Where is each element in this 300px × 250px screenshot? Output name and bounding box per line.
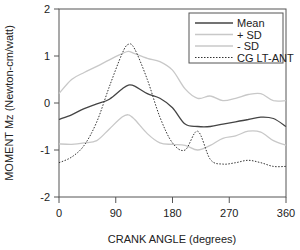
x-axis: 090180270360 <box>56 197 295 219</box>
y-tick-label: -1 <box>40 144 50 156</box>
y-axis-title: MOMENT Mz (Newton-cm/watt) <box>3 25 15 181</box>
x-tick-label: 270 <box>220 207 238 219</box>
y-axis: 210-1-2 <box>40 3 59 203</box>
series-line-sd <box>59 115 286 150</box>
legend-label: Mean <box>237 17 265 29</box>
x-tick-label: 90 <box>110 207 122 219</box>
y-tick-label: 2 <box>44 3 50 15</box>
x-tick-label: 360 <box>277 207 295 219</box>
legend: Mean+ SD- SDCG LT-ANT <box>189 13 294 64</box>
legend-label: + SD <box>237 29 262 41</box>
y-tick-label: 1 <box>44 50 50 62</box>
chart-figure: 210-1-2 090180270360 CRANK ANGLE (degree… <box>0 0 300 250</box>
x-tick-label: 0 <box>56 207 62 219</box>
series-line-mean <box>59 85 286 127</box>
legend-label: - SD <box>237 40 259 52</box>
x-axis-title: CRANK ANGLE (degrees) <box>108 233 236 245</box>
y-tick-label: -2 <box>40 191 50 203</box>
legend-label: CG LT-ANT <box>237 52 294 64</box>
x-tick-label: 180 <box>163 207 181 219</box>
y-tick-label: 0 <box>44 97 50 109</box>
